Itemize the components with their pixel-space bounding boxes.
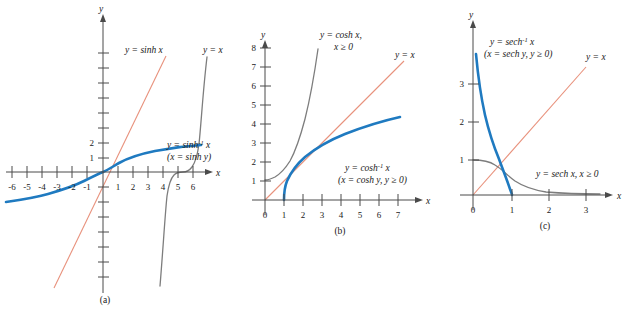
panel-a-xtick--5: -5 xyxy=(23,182,31,192)
panel-c-arcsech-label: y = sech-1 x (x = sech y, y ≥ 0) xyxy=(484,36,552,61)
panel-a-ytick-2: 2 xyxy=(90,138,95,148)
panel-b-xtick-1: 1 xyxy=(282,210,287,220)
panel-a-sinh-label: y = sinh x xyxy=(124,45,164,55)
panel-b-ytick-8: 8 xyxy=(252,43,257,53)
panel-a-arcsinh-label-main: y = sinh xyxy=(166,140,198,150)
panel-c-xtick-0: 0 xyxy=(471,205,476,215)
panel-b-ytick-7: 7 xyxy=(252,62,257,72)
panel-b-ytick-4: 4 xyxy=(252,119,257,129)
panel-a: -6 -5 -4 -3 -2 -1 1 2 3 4 5 6 1 2 x y y … xyxy=(6,4,223,306)
panel-b-xtick-7: 7 xyxy=(396,210,401,220)
svg-text:y = sech-1 x: y = sech-1 x xyxy=(489,36,535,48)
panel-b-caption: (b) xyxy=(334,226,345,237)
hyperbolic-inverse-figure: -6 -5 -4 -3 -2 -1 1 2 3 4 5 6 1 2 x y y … xyxy=(0,0,642,311)
panel-b-y-axis-label: y xyxy=(260,30,266,40)
panel-b-ytick-1: 1 xyxy=(252,176,257,186)
panel-c-xtick-1: 1 xyxy=(510,205,515,215)
panel-b-xtick-4: 4 xyxy=(339,210,344,220)
panel-c-arcsech-label-main: y = sech xyxy=(489,37,523,47)
panel-b-ytick-6: 6 xyxy=(252,81,257,91)
panel-b-arccosh-label: y = cosh-1 x (x = cosh y, y ≥ 0) xyxy=(338,162,407,187)
panel-a-identity-label: y = x xyxy=(202,45,223,55)
panel-a-xtick-5: 5 xyxy=(176,182,181,192)
panel-b-ytick-2: 2 xyxy=(252,157,257,167)
panel-a-xtick--4: -4 xyxy=(38,182,46,192)
panel-c-ytick-3: 3 xyxy=(460,79,465,89)
panel-a-xtick--6: -6 xyxy=(8,182,16,192)
panel-b-x-axis-arrow xyxy=(415,197,423,203)
panel-c-xtick-3: 3 xyxy=(584,205,589,215)
panel-c-x-axis-arrow xyxy=(605,192,613,198)
panel-b-arccosh-label-main: y = cosh xyxy=(344,163,378,173)
svg-text:y = sinh-1 x: y = sinh-1 x xyxy=(166,139,211,151)
panel-a-arcsinh-label-tail: x xyxy=(204,140,211,150)
panel-b-xtick-5: 5 xyxy=(358,210,363,220)
panel-b-ytick-3: 3 xyxy=(252,138,257,148)
panel-a-xtick-6: 6 xyxy=(191,182,196,192)
panel-b-arccosh-curve xyxy=(284,117,400,200)
panel-b-cosh-label-line2: x ≥ 0 xyxy=(333,42,353,52)
panel-b-xtick-0: 0 xyxy=(263,210,268,220)
panel-a-xtick-4: 4 xyxy=(161,182,166,192)
panel-a-xtick--1: -1 xyxy=(83,182,91,192)
panel-a-y-axis-arrow xyxy=(100,14,106,22)
panel-a-xtick-1: 1 xyxy=(116,182,121,192)
panel-b-cosh-curve xyxy=(265,49,318,180)
panel-c-caption: (c) xyxy=(540,221,551,232)
panel-b-xtick-6: 6 xyxy=(377,210,382,220)
panel-a-xtick--2: -2 xyxy=(68,182,76,192)
panel-c-x-axis-label: x xyxy=(616,191,622,201)
panel-a-x-axis-arrow xyxy=(205,169,213,175)
panel-c-arcsech-label-sub: (x = sech y, y ≥ 0) xyxy=(484,49,552,60)
panel-a-caption: (a) xyxy=(100,295,111,306)
panel-c-identity-label: y = x xyxy=(585,52,606,62)
panel-a-ytick-1: 1 xyxy=(90,153,95,163)
panel-c-xtick-2: 2 xyxy=(547,205,552,215)
panel-c-arcsech-label-tail: x xyxy=(528,37,535,47)
panel-a-arcsinh-label-sub: (x = sinh y) xyxy=(167,152,211,163)
panel-b-y-axis-arrow xyxy=(262,40,268,48)
panel-b-arccosh-label-sub: (x = cosh y, y ≥ 0) xyxy=(338,175,407,186)
panel-b-xtick-2: 2 xyxy=(301,210,306,220)
panel-b-x-axis-label: x xyxy=(425,196,431,206)
svg-text:y = cosh-1 x: y = cosh-1 x xyxy=(344,162,391,174)
figure-canvas: -6 -5 -4 -3 -2 -1 1 2 3 4 5 6 1 2 x y y … xyxy=(0,0,642,311)
panel-a-xtick-2: 2 xyxy=(131,182,136,192)
panel-c-ytick-1: 1 xyxy=(460,155,465,165)
panel-b-identity-label: y = x xyxy=(394,50,415,60)
panel-c-sech-label: y = sech x, x ≥ 0 xyxy=(535,169,599,179)
panel-a-xtick-3: 3 xyxy=(146,182,151,192)
panel-c-y-axis-label: y xyxy=(468,10,474,20)
panel-b-cosh-label-line1: y = cosh x, xyxy=(319,30,362,40)
panel-a-arcsinh-label: y = sinh-1 x (x = sinh y) xyxy=(166,139,211,164)
panel-a-x-axis-label: x xyxy=(215,168,221,178)
panel-a-xtick--3: -3 xyxy=(53,182,61,192)
panel-b-ytick-5: 5 xyxy=(252,100,257,110)
panel-a-y-axis-label: y xyxy=(98,4,104,14)
panel-b-arccosh-label-tail: x xyxy=(383,163,390,173)
panel-c: 0 1 2 3 1 2 3 x y y = sech-1 x (x = sech… xyxy=(460,10,623,232)
panel-c-ytick-2: 2 xyxy=(460,117,465,127)
panel-b: 0 1 2 3 4 5 6 7 1 2 3 4 5 6 7 8 x y y = … xyxy=(252,30,432,237)
panel-c-y-axis-arrow xyxy=(470,20,476,28)
panel-b-xtick-3: 3 xyxy=(320,210,325,220)
